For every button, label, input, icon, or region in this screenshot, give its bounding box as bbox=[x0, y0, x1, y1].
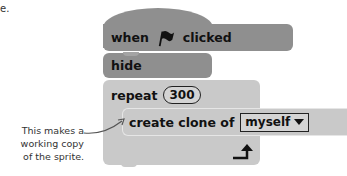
block-notch bbox=[123, 52, 139, 56]
repeat-bottom-tab bbox=[121, 163, 137, 167]
cropped-caption-text: e. bbox=[0, 3, 9, 14]
hide-label: hide bbox=[111, 58, 142, 73]
hide-block[interactable]: hide bbox=[103, 53, 212, 78]
loop-arrow-icon bbox=[232, 142, 254, 160]
annotation-line-2: working copy bbox=[0, 137, 84, 150]
annotation-arrow-icon bbox=[82, 115, 128, 137]
hat-label-clicked: clicked bbox=[183, 30, 232, 45]
hat-label-when: when bbox=[111, 30, 149, 45]
annotation-text: This makes a working copy of the sprite. bbox=[0, 124, 84, 163]
dropdown-arrow-icon bbox=[294, 119, 304, 125]
clone-target-value: myself bbox=[245, 115, 290, 129]
create-clone-block[interactable]: create clone of myself bbox=[122, 108, 347, 136]
annotation-line-3: of the sprite. bbox=[0, 150, 84, 163]
create-clone-label: create clone of bbox=[129, 115, 234, 130]
repeat-header: repeat 300 bbox=[111, 86, 201, 104]
repeat-count-input[interactable]: 300 bbox=[163, 86, 200, 104]
clone-target-dropdown[interactable]: myself bbox=[240, 113, 309, 132]
annotation-line-1: This makes a bbox=[0, 124, 84, 137]
when-flag-clicked-block[interactable]: when clicked bbox=[103, 24, 293, 51]
green-flag-icon bbox=[157, 29, 175, 47]
repeat-label: repeat bbox=[111, 88, 157, 103]
